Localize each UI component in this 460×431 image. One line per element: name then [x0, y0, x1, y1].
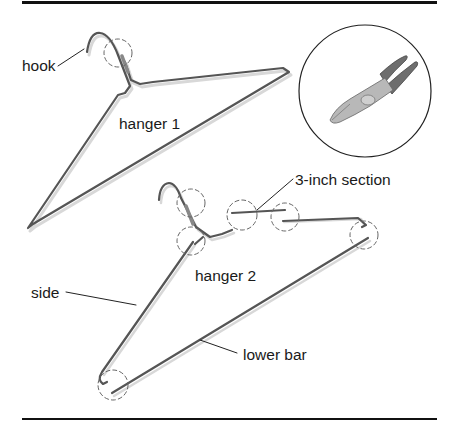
hanger-2-label: hanger 2: [195, 268, 256, 284]
coat-hanger-diagram: hook hanger 1 3-inch section hanger 2 si…: [0, 0, 460, 431]
wire-cutter-pliers-icon: [299, 25, 431, 157]
hanger-1-label: hanger 1: [119, 116, 180, 132]
lower-bar-label: lower bar: [243, 347, 307, 363]
side-label: side: [31, 285, 59, 301]
section-label: 3-inch section: [295, 172, 391, 188]
hanger-2: [66, 179, 378, 400]
hook-label: hook: [22, 58, 56, 74]
diagram-artwork: [0, 0, 460, 431]
